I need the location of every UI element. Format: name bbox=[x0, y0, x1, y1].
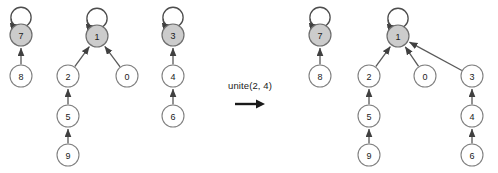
node-8[interactable]: 8 bbox=[309, 65, 331, 87]
node-label-3: 3 bbox=[170, 31, 175, 41]
node-2[interactable]: 2 bbox=[358, 65, 380, 87]
node-label-1: 1 bbox=[94, 32, 99, 42]
node-label-8: 8 bbox=[317, 72, 322, 82]
node-label-5: 5 bbox=[366, 112, 371, 122]
node-7[interactable]: 7 bbox=[309, 24, 331, 46]
node-2[interactable]: 2 bbox=[57, 65, 79, 87]
node-label-3: 3 bbox=[469, 72, 474, 82]
node-8[interactable]: 8 bbox=[10, 65, 32, 87]
right-arrow-icon bbox=[233, 98, 267, 110]
node-label-4: 4 bbox=[170, 72, 175, 82]
edge-2-to-1 bbox=[75, 47, 90, 67]
node-label-9: 9 bbox=[366, 151, 371, 161]
node-label-6: 6 bbox=[469, 151, 474, 161]
node-4[interactable]: 4 bbox=[461, 105, 483, 127]
node-3[interactable]: 3 bbox=[461, 65, 483, 87]
edge-3-to-1 bbox=[409, 42, 461, 70]
node-7[interactable]: 7 bbox=[10, 24, 32, 46]
node-label-0: 0 bbox=[422, 72, 427, 82]
node-label-2: 2 bbox=[65, 72, 70, 82]
node-label-5: 5 bbox=[65, 112, 70, 122]
node-label-7: 7 bbox=[317, 31, 322, 41]
node-4[interactable]: 4 bbox=[162, 65, 184, 87]
node-0[interactable]: 0 bbox=[116, 65, 138, 87]
node-9[interactable]: 9 bbox=[57, 144, 79, 166]
node-label-6: 6 bbox=[170, 112, 175, 122]
node-label-0: 0 bbox=[124, 72, 129, 82]
node-label-9: 9 bbox=[65, 151, 70, 161]
operation-label: unite(2, 4) bbox=[203, 80, 297, 91]
operation-arrow bbox=[203, 94, 297, 114]
node-label-4: 4 bbox=[469, 112, 474, 122]
node-label-2: 2 bbox=[366, 72, 371, 82]
node-6[interactable]: 6 bbox=[162, 105, 184, 127]
node-1[interactable]: 1 bbox=[86, 25, 108, 47]
node-6[interactable]: 6 bbox=[461, 144, 483, 166]
node-1[interactable]: 1 bbox=[387, 25, 409, 47]
node-0[interactable]: 0 bbox=[414, 65, 436, 87]
edge-0-to-1 bbox=[405, 47, 418, 67]
node-5[interactable]: 5 bbox=[57, 105, 79, 127]
figure-canvas: 7812059346 7812035946 unite(2, 4) bbox=[0, 0, 498, 173]
before-state-group: 7812059346 bbox=[10, 7, 184, 166]
edge-0-to-1 bbox=[105, 46, 120, 66]
node-label-1: 1 bbox=[395, 32, 400, 42]
after-state-group: 7812035946 bbox=[309, 7, 483, 166]
node-3[interactable]: 3 bbox=[162, 24, 184, 46]
node-5[interactable]: 5 bbox=[358, 105, 380, 127]
node-9[interactable]: 9 bbox=[358, 144, 380, 166]
node-label-7: 7 bbox=[18, 31, 23, 41]
edge-2-to-1 bbox=[376, 47, 391, 67]
node-label-8: 8 bbox=[18, 72, 23, 82]
